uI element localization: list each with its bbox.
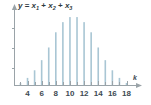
x-tick-label-18: 18: [122, 89, 131, 98]
x-axis-tick-labels: 4681012141618: [25, 89, 131, 98]
x-tick-label-10: 10: [65, 89, 74, 98]
bar-k-10: [69, 17, 71, 85]
bar-k-11: [76, 17, 78, 85]
x-axis-ticks: [21, 81, 128, 86]
bar-k-14: [97, 47, 99, 85]
plot-area: 4681012141618 k: [0, 0, 151, 105]
x-tick-label-12: 12: [80, 89, 89, 98]
x-tick-label-6: 6: [39, 89, 44, 98]
x-tick-label-8: 8: [54, 89, 59, 98]
x-axis: 4681012141618 k: [15, 74, 143, 98]
x-axis-arrow-icon: [136, 83, 142, 88]
bar-k-13: [90, 32, 92, 85]
bar-k-12: [83, 22, 85, 85]
bar-k-9: [62, 22, 64, 85]
x-axis-label: k: [133, 74, 138, 81]
x-tick-label-14: 14: [94, 89, 103, 98]
dice-sum-distribution-chart: y = x1 + x2 + x3 4681012141618 k: [0, 0, 151, 105]
bar-k-7: [48, 47, 50, 85]
y-axis-arrow-icon: [12, 4, 17, 10]
bars-group: [20, 17, 128, 85]
y-axis: [12, 4, 18, 86]
x-tick-label-16: 16: [108, 89, 117, 98]
bar-k-8: [55, 32, 57, 85]
x-tick-label-4: 4: [25, 89, 30, 98]
